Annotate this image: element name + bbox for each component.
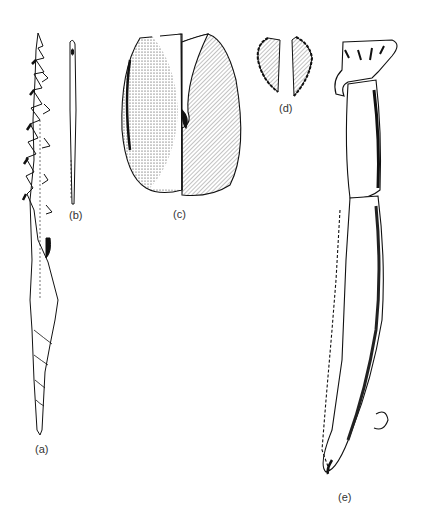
label-b: (b) [69, 209, 82, 221]
label-e: (e) [338, 491, 351, 503]
label-d: (d) [279, 102, 292, 114]
label-a: (a) [35, 443, 48, 455]
artifact-figure: (a) (b) (c) (d) (e) [0, 0, 421, 528]
harpoon-a [23, 33, 58, 435]
label-c: (c) [173, 208, 186, 220]
flint-pieces-d [258, 37, 312, 96]
antler-tool-e [322, 40, 397, 474]
needle-b [70, 40, 76, 204]
artifact-drawings [0, 0, 421, 528]
stone-lamp-c [122, 34, 241, 196]
